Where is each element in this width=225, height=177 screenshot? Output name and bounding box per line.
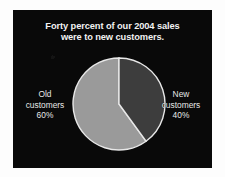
pie-label-old-name-line-1: Old [17, 89, 73, 100]
pie-label-new-name-line-1: New [152, 89, 210, 100]
pie-label-new-customers: New customers 40% [152, 89, 210, 121]
slide-title-line-2: were to new customers. [13, 32, 212, 43]
slide-title: Forty percent of our 2004 sales were to … [13, 21, 212, 44]
pie-label-new-name-line-2: customers [152, 100, 210, 111]
slide-screenshot: Forty percent of our 2004 sales were to … [0, 0, 225, 177]
pie-label-old-name-line-2: customers [17, 100, 73, 111]
slide-title-line-1: Forty percent of our 2004 sales [13, 21, 212, 32]
slide-panel: Forty percent of our 2004 sales were to … [13, 10, 212, 168]
pie-label-new-value: 40% [152, 110, 210, 121]
pie-label-old-value: 60% [17, 110, 73, 121]
pie-label-old-customers: Old customers 60% [17, 89, 73, 121]
